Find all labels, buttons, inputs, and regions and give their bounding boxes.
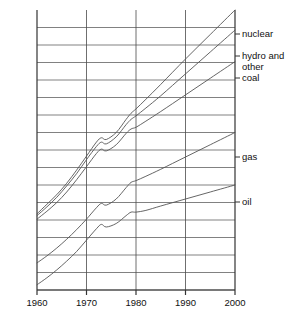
x-tick-marks	[37, 290, 235, 295]
series-label-hydro-and-other: other	[242, 61, 264, 72]
x-tick-label-1970: 1970	[67, 297, 107, 308]
energy-demand-chart: annual world energy demand 1960 1970 198…	[0, 0, 302, 331]
series-label-hydro-and: hydro and	[242, 50, 284, 61]
series-label-gas: gas	[242, 151, 257, 162]
series-label-coal: coal	[242, 72, 259, 83]
series-label-nuclear: nuclear	[242, 28, 273, 39]
x-tick-label-2000: 2000	[215, 297, 255, 308]
x-tick-label-1960: 1960	[17, 297, 57, 308]
label-leader-lines	[235, 34, 240, 202]
x-tick-label-1990: 1990	[166, 297, 206, 308]
series-label-oil: oil	[242, 196, 252, 207]
x-tick-label-1980: 1980	[116, 297, 156, 308]
